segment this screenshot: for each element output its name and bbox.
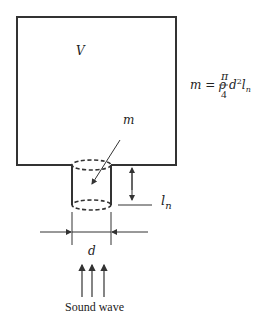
cavity-volume bbox=[17, 17, 176, 165]
neck-length-label: ln bbox=[161, 193, 172, 211]
formula-rhs: d2ln bbox=[229, 77, 251, 94]
sound-wave-label: Sound wave bbox=[65, 300, 124, 314]
diameter-label: d bbox=[88, 244, 96, 258]
mass-formula: m = ρ π 4 d2ln bbox=[190, 70, 251, 100]
neck-bottom-ellipse bbox=[72, 200, 111, 210]
mass-label: m bbox=[123, 113, 134, 127]
neck-top-ellipse bbox=[72, 160, 111, 170]
formula-numerator: π bbox=[220, 70, 229, 83]
formula-denominator: 4 bbox=[221, 88, 227, 100]
mass-pointer-arrow bbox=[92, 140, 120, 184]
helmholtz-resonator-diagram: m V ln d Sound wave m = ρ π 4 d2ln bbox=[0, 0, 258, 331]
volume-label: V bbox=[76, 44, 86, 58]
